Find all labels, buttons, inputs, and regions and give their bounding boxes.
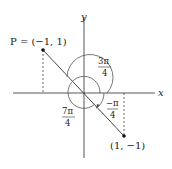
angle-neg-pi-4-den: 4 (110, 110, 115, 120)
point-q (122, 134, 126, 138)
angle-3pi-4-num: 3π (98, 56, 109, 66)
x-axis-label: x (158, 87, 164, 98)
point-q-label: (1, −1) (110, 140, 145, 151)
y-axis-label: y (80, 11, 87, 22)
point-p-label: P = (−1, 1) (10, 36, 67, 47)
angle-7pi-4-num: 7π (62, 106, 73, 116)
angle-7pi-4-den: 4 (65, 118, 70, 128)
angle-neg-pi-4-num: −π (106, 98, 119, 108)
angle-3pi-4-den: 4 (102, 68, 107, 78)
point-p (41, 48, 45, 52)
unit-angle-diagram: x y P = (−1, 1) (1, −1) 3π 4 7π 4 −π 4 (0, 0, 172, 169)
